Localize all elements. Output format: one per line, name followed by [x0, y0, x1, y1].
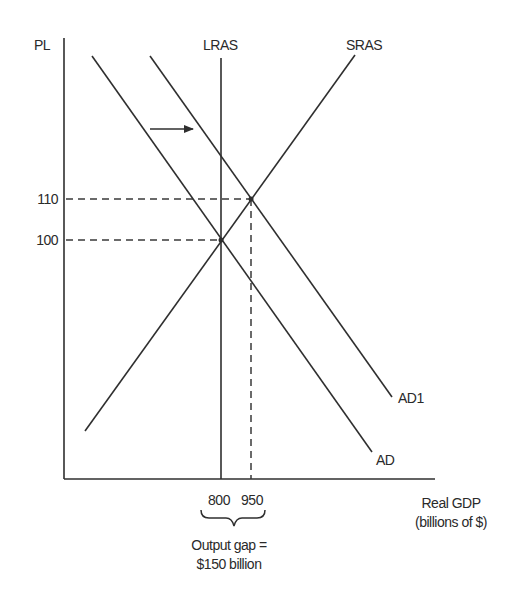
x-tick-950: 950 [241, 492, 264, 508]
ad1-label: AD1 [398, 390, 424, 406]
ad-label: AD [376, 452, 395, 468]
x-tick-800: 800 [208, 492, 231, 508]
sras-curve [85, 55, 355, 431]
output-gap-label-line2: $150 billion [197, 556, 262, 572]
x-axis-label-line2: (billions of $) [415, 514, 487, 530]
y-tick-100: 100 [36, 232, 59, 248]
y-axis-label: PL [34, 37, 51, 53]
ad1-curve [150, 56, 392, 397]
x-axis-label-line1: Real GDP [421, 495, 480, 511]
equilibrium-point-new [249, 197, 254, 202]
lras-label: LRAS [203, 37, 238, 53]
ad-as-chart: PL LRAS SRAS AD1 AD 110 100 800 950 Real… [0, 0, 522, 611]
y-tick-110: 110 [37, 191, 59, 207]
output-gap-label-line1: Output gap = [191, 537, 267, 553]
sras-label: SRAS [346, 37, 382, 53]
output-gap-brace [201, 510, 265, 526]
ad-curve [92, 56, 372, 452]
equilibrium-point-initial [219, 238, 224, 243]
